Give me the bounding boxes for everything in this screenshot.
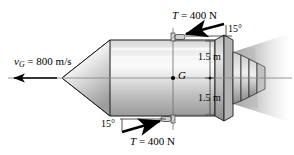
velocity-label: vG = 800 m/s	[14, 56, 71, 69]
velocity-value: 800 m/s	[36, 55, 71, 67]
lower-dimension-label: 1.5 m	[198, 93, 221, 103]
bottom-thrust-arrow	[122, 121, 160, 132]
rocket-free-body-diagram: vG = 800 m/s T = 400 N T = 400 N 15° 15°…	[0, 0, 294, 155]
top-thrust-label: T = 400 N	[172, 10, 217, 21]
bottom-thrust-equals: =	[136, 135, 148, 147]
top-thrust-equals: =	[178, 9, 190, 21]
top-thrust-pin	[171, 33, 185, 41]
top-thrust-value: 400 N	[190, 9, 217, 21]
bottom-thrust-label: T = 400 N	[130, 136, 175, 147]
top-angle-label: 15°	[228, 24, 242, 34]
upper-dimension-label: 1.5 m	[198, 52, 221, 62]
center-of-mass-point	[171, 76, 175, 80]
bottom-thrust-value: 400 N	[148, 135, 175, 147]
diagram-canvas	[0, 0, 294, 155]
top-thrust-arrow	[186, 24, 224, 34]
center-of-mass-label: G	[178, 70, 186, 81]
velocity-equals: =	[25, 55, 37, 67]
bottom-angle-label: 15°	[101, 119, 115, 129]
